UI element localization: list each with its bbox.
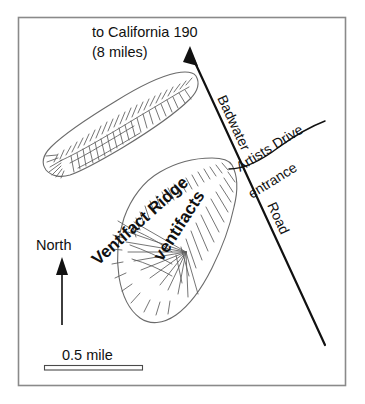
compass-label: North xyxy=(36,237,71,253)
destination-label-line2: (8 miles) xyxy=(92,44,148,60)
scale-bar-body xyxy=(45,366,143,371)
map-canvas: to California 190 (8 miles) Badwater Roa… xyxy=(0,0,365,404)
scale-bar xyxy=(45,366,143,371)
destination-label-line1: to California 190 xyxy=(92,24,198,40)
map-figure: to California 190 (8 miles) Badwater Roa… xyxy=(0,0,365,404)
scale-label: 0.5 mile xyxy=(62,347,113,363)
